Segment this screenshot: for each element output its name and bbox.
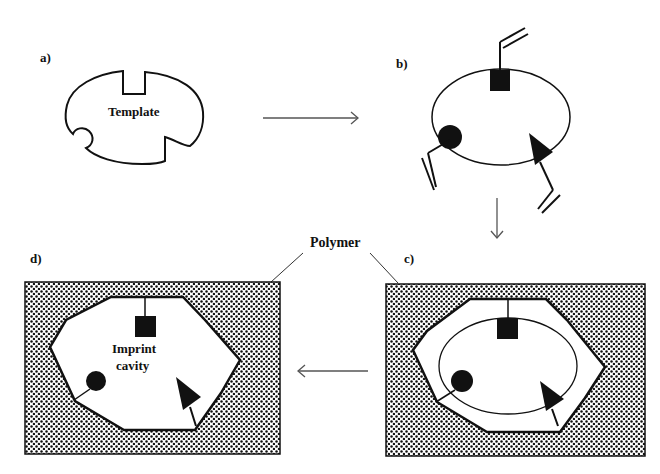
panel-a-label: a) [40, 50, 51, 66]
panel-b-label: b) [396, 56, 408, 72]
imprint-text-line1: Imprint [112, 341, 156, 357]
polymer-callout-text: Polymer [310, 235, 361, 251]
imprint-cavity-matrix [25, 282, 280, 454]
polymer-callout-lines [271, 253, 398, 283]
template-text: Template [108, 104, 160, 120]
imprint-text-line2: cavity [116, 358, 149, 374]
panel-c-label: c) [404, 251, 414, 267]
arrow-down [491, 198, 503, 238]
panel-d-label: d) [30, 251, 42, 267]
arrow-left [298, 365, 368, 377]
template-with-monomers [422, 28, 570, 213]
polymer-matrix-with-template [386, 284, 645, 456]
arrow-right [263, 112, 358, 124]
